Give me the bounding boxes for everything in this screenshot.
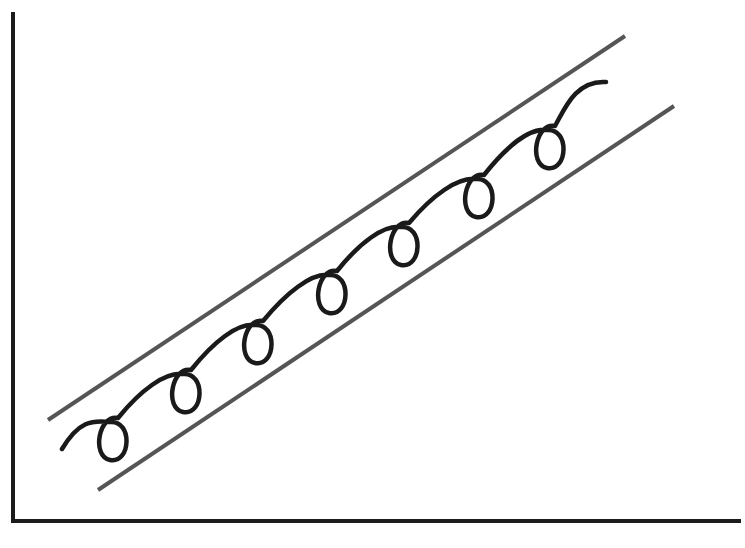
band [48, 36, 674, 490]
helix-in-band-diagram [0, 0, 745, 548]
diagram-canvas [0, 0, 745, 548]
helix-spiral [62, 82, 606, 460]
lower-band-line [98, 106, 674, 490]
axes [11, 12, 741, 523]
upper-band-line [48, 36, 625, 420]
